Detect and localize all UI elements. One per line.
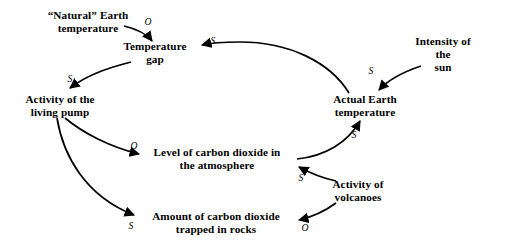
link-label-sun-to-actual-temp: S bbox=[369, 66, 374, 76]
link-volcanoes-to-co2-atm bbox=[299, 167, 336, 181]
link-label-temp-gap-to-living-pump: S bbox=[68, 74, 73, 84]
link-label-natural-temp-to-temp-gap: O bbox=[145, 17, 152, 27]
link-living-pump-to-co2-atm bbox=[65, 118, 139, 154]
node-temperature-gap: Temperature gap bbox=[123, 40, 186, 66]
link-co2-atm-to-actual-temp bbox=[297, 121, 360, 159]
link-label-volcanoes-to-co2-atm: S bbox=[299, 173, 304, 183]
node-amount-of-carbon-dioxide-trapped-in-rocks: Amount of carbon dioxide trapped in rock… bbox=[152, 210, 280, 236]
link-label-co2-atm-to-actual-temp: S bbox=[352, 130, 357, 140]
link-label-living-pump-to-co2-rocks: S bbox=[129, 221, 134, 231]
node-actual-earth-temperature: Actual Earth temperature bbox=[333, 93, 397, 119]
link-volcanoes-to-co2-rocks bbox=[299, 203, 336, 220]
node-natural-earth-temperature: “Natural” Earth temperature bbox=[48, 9, 129, 35]
node-level-of-carbon-dioxide-in-atmosphere: Level of carbon dioxide in the atmospher… bbox=[154, 146, 281, 172]
link-actual-temp-to-temp-gap bbox=[202, 42, 349, 93]
node-activity-of-volcanoes: Activity of volcanoes bbox=[332, 178, 383, 204]
node-intensity-of-the-sun: Intensity of the sun bbox=[411, 35, 475, 75]
link-temp-gap-to-living-pump bbox=[70, 62, 131, 88]
node-activity-of-living-pump: Activity of the living pump bbox=[25, 93, 94, 119]
link-label-actual-temp-to-temp-gap: S bbox=[211, 36, 216, 46]
link-label-volcanoes-to-co2-rocks: O bbox=[302, 223, 309, 233]
link-living-pump-to-co2-rocks bbox=[57, 118, 134, 215]
causal-loop-diagram: “Natural” Earth temperature Temperature … bbox=[0, 0, 507, 248]
link-label-living-pump-to-co2-atm: O bbox=[131, 141, 138, 151]
